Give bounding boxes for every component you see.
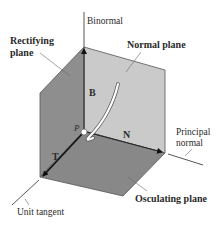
- binormal-label: Binormal: [87, 16, 123, 26]
- unit-tangent-leader: [25, 199, 29, 205]
- rectifying-leader: [40, 53, 70, 76]
- principal-normal-label-line2: normal: [176, 138, 203, 148]
- t-vector-label: T: [52, 151, 59, 162]
- unit-tangent-axis: [12, 180, 39, 205]
- rectifying-plane-label-line1: Rectifying: [10, 35, 54, 46]
- tnb-frame-diagram: B N T P Binormal Principal normal Unit t…: [0, 0, 219, 228]
- point-p-label: P: [73, 123, 80, 133]
- rectifying-plane-label-line2: plane: [10, 47, 34, 58]
- principal-normal-leader: [185, 149, 192, 156]
- point-p-marker: [81, 129, 87, 135]
- principal-normal-label-line1: Principal: [176, 127, 211, 137]
- n-vector-label: N: [123, 129, 131, 140]
- b-vector-label: B: [89, 87, 96, 98]
- unit-tangent-label: Unit tangent: [17, 207, 65, 217]
- osculating-plane-label: Osculating plane: [135, 193, 208, 204]
- normal-plane-label: Normal plane: [127, 39, 186, 50]
